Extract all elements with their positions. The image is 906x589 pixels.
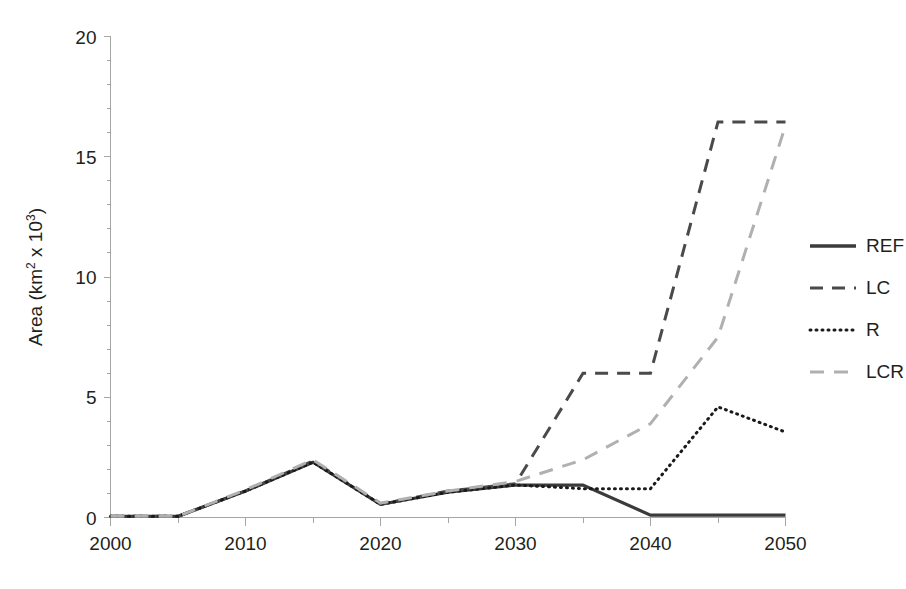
x-tick-label-2050: 2050 [764, 533, 806, 554]
y-tick-label-10: 10 [75, 267, 96, 288]
legend-label-ref: REF [866, 235, 904, 256]
x-tick-label-2020: 2020 [359, 533, 401, 554]
x-axis: 200020102020203020402050 [89, 518, 806, 554]
y-tick-label-15: 15 [75, 147, 96, 168]
series-line-lcr [111, 125, 786, 516]
y-axis-title: Area (km2 x 103) [24, 208, 46, 346]
chart-container: 05101520 200020102020203020402050 Area (… [0, 0, 906, 589]
legend-item-ref[interactable]: REF [810, 235, 904, 256]
series-lines [111, 122, 786, 516]
series-line-ref [111, 462, 786, 516]
legend-item-lc[interactable]: LC [810, 277, 890, 298]
legend-item-lcr[interactable]: LCR [810, 361, 904, 382]
y-tick-label-20: 20 [75, 27, 96, 48]
legend-label-lcr: LCR [866, 361, 904, 382]
x-tick-label-2040: 2040 [629, 533, 671, 554]
series-line-r [111, 407, 786, 516]
series-line-lc [111, 122, 786, 516]
x-tick-label-2010: 2010 [224, 533, 266, 554]
legend-label-lc: LC [866, 277, 890, 298]
line-chart: 05101520 200020102020203020402050 Area (… [0, 0, 906, 589]
y-tick-label-0: 0 [86, 508, 97, 529]
x-tick-label-2000: 2000 [89, 533, 131, 554]
chart-legend: REFLCRLCR [810, 235, 904, 382]
y-axis: 05101520 [75, 27, 110, 529]
x-tick-label-2030: 2030 [494, 533, 536, 554]
y-axis-label: Area (km2 x 103) [24, 208, 46, 346]
y-tick-label-5: 5 [86, 387, 97, 408]
legend-label-r: R [866, 319, 880, 340]
legend-item-r[interactable]: R [810, 319, 880, 340]
